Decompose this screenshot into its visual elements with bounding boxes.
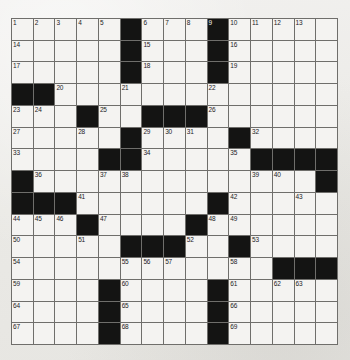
grid-cell[interactable] [186,62,208,84]
grid-cell[interactable]: 49 [229,215,251,237]
grid-cell[interactable]: 23 [12,106,34,128]
grid-cell[interactable] [316,236,338,258]
grid-cell[interactable] [208,171,230,193]
grid-cell[interactable] [34,62,56,84]
grid-cell[interactable] [295,41,317,63]
grid-cell[interactable] [273,215,295,237]
grid-cell[interactable]: 41 [77,193,99,215]
grid-cell[interactable]: 29 [142,128,164,150]
grid-cell[interactable] [34,280,56,302]
grid-cell[interactable] [121,106,143,128]
grid-cell[interactable] [208,258,230,280]
grid-cell[interactable] [164,302,186,324]
grid-cell[interactable] [186,193,208,215]
grid-cell[interactable]: 27 [12,128,34,150]
grid-cell[interactable] [34,302,56,324]
grid-cell[interactable] [55,323,77,345]
grid-cell[interactable] [55,302,77,324]
grid-cell[interactable]: 67 [12,323,34,345]
grid-cell[interactable] [251,62,273,84]
grid-cell[interactable]: 18 [142,62,164,84]
grid-cell[interactable]: 24 [34,106,56,128]
grid-cell[interactable] [251,106,273,128]
grid-cell[interactable] [77,280,99,302]
grid-cell[interactable]: 43 [295,193,317,215]
grid-cell[interactable] [229,106,251,128]
grid-cell[interactable] [295,215,317,237]
grid-cell[interactable] [208,128,230,150]
grid-cell[interactable]: 34 [142,149,164,171]
grid-cell[interactable]: 40 [273,171,295,193]
grid-cell[interactable] [55,236,77,258]
grid-cell[interactable] [77,171,99,193]
grid-cell[interactable]: 69 [229,323,251,345]
grid-cell[interactable]: 17 [12,62,34,84]
grid-cell[interactable]: 54 [12,258,34,280]
grid-cell[interactable] [273,62,295,84]
grid-cell[interactable] [34,258,56,280]
grid-cell[interactable] [251,193,273,215]
grid-cell[interactable] [251,84,273,106]
grid-cell[interactable] [316,19,338,41]
grid-cell[interactable]: 44 [12,215,34,237]
grid-cell[interactable] [164,149,186,171]
grid-cell[interactable] [99,41,121,63]
grid-cell[interactable] [273,193,295,215]
grid-cell[interactable] [34,149,56,171]
grid-cell[interactable]: 30 [164,128,186,150]
grid-cell[interactable] [99,84,121,106]
grid-cell[interactable] [316,84,338,106]
grid-cell[interactable] [99,128,121,150]
grid-cell[interactable] [251,323,273,345]
grid-cell[interactable] [316,41,338,63]
grid-cell[interactable]: 47 [99,215,121,237]
grid-cell[interactable] [295,302,317,324]
grid-cell[interactable] [142,280,164,302]
grid-cell[interactable] [316,302,338,324]
grid-cell[interactable]: 28 [77,128,99,150]
grid-cell[interactable] [164,215,186,237]
grid-cell[interactable]: 6 [142,19,164,41]
grid-cell[interactable] [229,171,251,193]
grid-cell[interactable] [55,41,77,63]
grid-cell[interactable]: 15 [142,41,164,63]
grid-cell[interactable]: 1 [12,19,34,41]
grid-cell[interactable] [142,323,164,345]
grid-cell[interactable]: 20 [55,84,77,106]
grid-cell[interactable]: 33 [12,149,34,171]
grid-cell[interactable] [121,193,143,215]
grid-cell[interactable]: 59 [12,280,34,302]
grid-cell[interactable]: 11 [251,19,273,41]
grid-cell[interactable]: 52 [186,236,208,258]
grid-cell[interactable] [273,84,295,106]
grid-cell[interactable] [77,258,99,280]
grid-cell[interactable] [186,171,208,193]
grid-cell[interactable] [55,62,77,84]
grid-cell[interactable] [142,302,164,324]
grid-cell[interactable] [121,215,143,237]
grid-cell[interactable]: 22 [208,84,230,106]
grid-cell[interactable] [273,323,295,345]
crossword-grid[interactable]: 1234567891011121314151617181920212223242… [11,18,338,345]
grid-cell[interactable] [273,106,295,128]
grid-cell[interactable] [55,106,77,128]
grid-cell[interactable]: 58 [229,258,251,280]
grid-cell[interactable]: 14 [12,41,34,63]
grid-cell[interactable] [251,280,273,302]
grid-cell[interactable] [77,323,99,345]
grid-cell[interactable]: 35 [229,149,251,171]
grid-cell[interactable] [273,41,295,63]
grid-cell[interactable]: 5 [99,19,121,41]
grid-cell[interactable]: 46 [55,215,77,237]
grid-cell[interactable] [295,106,317,128]
grid-cell[interactable]: 51 [77,236,99,258]
grid-cell[interactable]: 66 [229,302,251,324]
grid-cell[interactable] [295,62,317,84]
grid-cell[interactable] [77,302,99,324]
grid-cell[interactable]: 7 [164,19,186,41]
grid-cell[interactable] [99,258,121,280]
grid-cell[interactable] [316,128,338,150]
grid-cell[interactable] [273,236,295,258]
grid-cell[interactable] [229,84,251,106]
grid-cell[interactable] [142,171,164,193]
